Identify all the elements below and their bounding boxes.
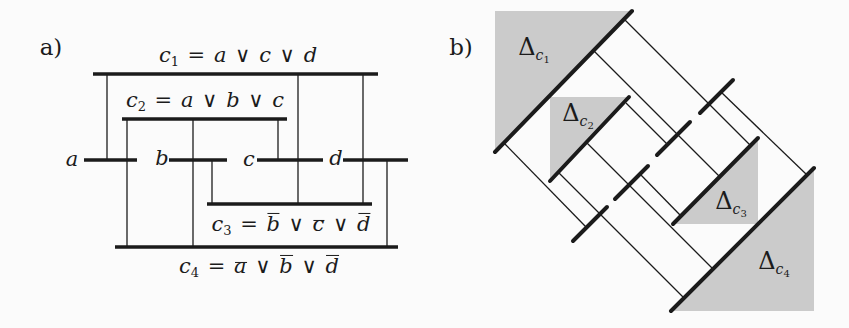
math-token: 2 <box>138 99 146 114</box>
math-token: b <box>279 254 292 278</box>
math-token: ∨ <box>226 43 259 67</box>
variable-label-b: b <box>155 146 168 170</box>
math-token: ∨ <box>293 254 326 278</box>
math-token: a <box>181 88 194 112</box>
triangle-label-c2: Δc2 <box>562 100 594 132</box>
clause-formula-c4: c4 = a ∨ b ∨ d <box>179 254 339 280</box>
math-token: d <box>304 43 317 67</box>
math-token: c <box>179 254 191 278</box>
clause-formula-c2: c2 = a ∨ b ∨ c <box>126 88 284 114</box>
math-token: d <box>326 254 339 278</box>
math-token: Δ <box>715 187 732 215</box>
math-token: d <box>329 146 342 170</box>
math-token: 2 <box>587 120 593 131</box>
panel-a-tag: a) <box>40 34 63 61</box>
math-token: ∨ <box>247 254 280 278</box>
figure-canvas: a) b) c1 = a ∨ c ∨ dc2 = a ∨ b ∨ cc3 = b… <box>0 0 849 328</box>
math-token: c <box>272 88 284 112</box>
math-token: 3 <box>223 223 231 238</box>
math-token: b <box>266 212 279 236</box>
math-token: 1 <box>543 54 549 65</box>
figure-labels: a) b) c1 = a ∨ c ∨ dc2 = a ∨ b ∨ cc3 = b… <box>0 0 849 328</box>
math-token: = <box>231 212 266 236</box>
math-token: c <box>580 113 588 129</box>
math-token: = <box>199 254 234 278</box>
math-token: ∨ <box>193 88 226 112</box>
math-token: 4 <box>783 268 789 279</box>
variable-label-c: c <box>243 147 255 171</box>
math-token: c <box>159 43 171 67</box>
math-token: a <box>214 43 227 67</box>
variable-label-a: a <box>66 147 79 171</box>
math-token: d <box>357 212 370 236</box>
math-token: ∨ <box>280 212 313 236</box>
math-token: 1 <box>171 54 179 69</box>
math-token: c <box>243 147 255 171</box>
math-token: c <box>126 88 138 112</box>
math-token: Δ <box>758 247 775 275</box>
clause-formula-c1: c1 = a ∨ c ∨ d <box>159 43 317 69</box>
math-token: 3 <box>740 208 746 219</box>
math-token: c <box>536 47 544 63</box>
math-token: = <box>146 88 181 112</box>
variable-label-d: d <box>329 146 342 170</box>
math-token: c <box>211 212 223 236</box>
math-token: b <box>155 146 168 170</box>
triangle-label-c3: Δc3 <box>715 188 747 220</box>
math-token: ∨ <box>271 43 304 67</box>
math-token: a <box>234 254 247 278</box>
math-token: c <box>313 212 325 236</box>
math-token: Δ <box>562 99 579 127</box>
math-token: Δ <box>518 33 535 61</box>
clause-formula-c3: c3 = b ∨ c ∨ d <box>211 212 370 238</box>
math-token: c <box>733 201 741 217</box>
math-token: 4 <box>191 265 199 280</box>
math-token: ∨ <box>324 212 357 236</box>
math-token: b <box>226 88 239 112</box>
triangle-label-c4: Δc4 <box>758 248 790 280</box>
panel-b-tag: b) <box>449 34 473 61</box>
math-token: c <box>776 261 784 277</box>
math-token: c <box>259 43 271 67</box>
math-token: ∨ <box>240 88 273 112</box>
math-token: a <box>66 147 79 171</box>
triangle-label-c1: Δc1 <box>518 34 550 66</box>
math-token: = <box>179 43 214 67</box>
